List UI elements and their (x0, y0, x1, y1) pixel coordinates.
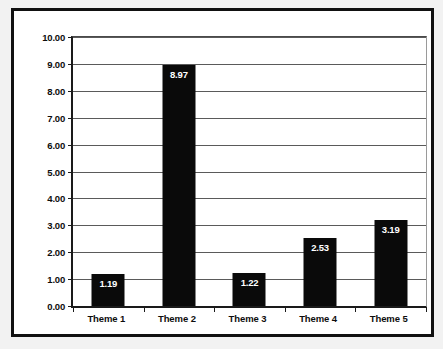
x-axis-category-label: Theme 3 (212, 313, 283, 324)
bar-series: 1.198.971.222.533.19 (73, 37, 426, 306)
bar-slot: 1.19 (73, 37, 144, 306)
plot-area: 10.009.008.007.006.005.004.003.002.001.0… (71, 36, 427, 308)
bar-value-label: 2.53 (304, 242, 337, 253)
y-axis-tick-label: 7.00 (47, 112, 65, 123)
y-axis-tick-label: 8.00 (47, 85, 65, 96)
x-axis-category-label: Theme 1 (71, 313, 142, 324)
bar-slot: 1.22 (214, 37, 285, 306)
bar-value-label: 1.19 (92, 278, 125, 289)
bar-slot: 2.53 (285, 37, 356, 306)
bar-slot: 3.19 (355, 37, 426, 306)
bar-value-label: 3.19 (374, 224, 407, 235)
y-axis-tick-label: 4.00 (47, 193, 65, 204)
bar[interactable]: 2.53 (304, 238, 337, 306)
x-axis-category-label: Theme 5 (353, 313, 424, 324)
bar[interactable]: 1.22 (233, 273, 266, 306)
y-axis-tick-label: 3.00 (47, 220, 65, 231)
y-axis-tick-label: 0.00 (47, 301, 65, 312)
x-axis-labels: Theme 1Theme 2Theme 3Theme 4Theme 5 (71, 310, 427, 330)
bar-value-label: 1.22 (233, 277, 266, 288)
chart-figure: 10.009.008.007.006.005.004.003.002.001.0… (0, 0, 443, 349)
y-axis-tick-label: 2.00 (47, 247, 65, 258)
chart-frame: 10.009.008.007.006.005.004.003.002.001.0… (11, 8, 434, 337)
y-axis-tick-label: 1.00 (47, 274, 65, 285)
bar[interactable]: 3.19 (374, 220, 407, 306)
y-axis-tick-label: 6.00 (47, 139, 65, 150)
y-axis-tick-label: 9.00 (47, 58, 65, 69)
bar-slot: 8.97 (144, 37, 215, 306)
bar-value-label: 8.97 (162, 69, 195, 80)
bar[interactable]: 1.19 (92, 274, 125, 306)
x-axis-category-label: Theme 2 (142, 313, 213, 324)
x-axis-category-label: Theme 4 (283, 313, 354, 324)
y-axis-tick-label: 5.00 (47, 166, 65, 177)
y-axis-tick-label: 10.00 (42, 32, 65, 43)
bar[interactable]: 8.97 (162, 65, 195, 306)
